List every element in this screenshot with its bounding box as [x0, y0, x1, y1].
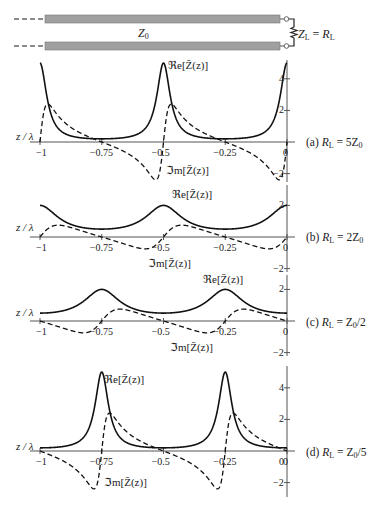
- x-tick-label: −0.5: [152, 243, 170, 253]
- plot-panel-d: [30, 366, 295, 497]
- x-tick-label: −0.75: [90, 243, 113, 253]
- x-tick-label: −1: [36, 327, 47, 337]
- x-axis-label-b: z / λ: [16, 222, 34, 233]
- panel-caption-a: (a) RL = 5Z0: [306, 137, 363, 150]
- y-tick-label: −2: [273, 348, 284, 358]
- re-curve: [40, 63, 287, 139]
- y-tick-label: 2: [279, 414, 284, 424]
- re-curve-label-d: ℜe[Z̄(z)]: [104, 374, 144, 385]
- x-tick-label: −0.75: [90, 148, 113, 158]
- im-curve-label-c: ℑm[Z̄(z)]: [170, 342, 213, 353]
- im-curve-label-d: ℑm[Z̄(z)]: [104, 477, 147, 488]
- load-resistor-icon: [289, 19, 297, 46]
- x-axis-label-c: z / λ: [16, 307, 34, 318]
- im-curve-label-b: ℑm[Z̄(z)]: [148, 258, 191, 269]
- y-tick-label: −2: [273, 169, 284, 179]
- y-tick-label: 2: [279, 105, 284, 115]
- x-tick-label: −0.25: [213, 243, 236, 253]
- x-tick-label: −1: [36, 457, 47, 467]
- y-tick-label: 2: [279, 284, 284, 294]
- x-tick-label: −1: [36, 148, 47, 158]
- panel-caption-b: (b) RL = 2Z0: [306, 232, 363, 245]
- x-tick-label: −1: [36, 243, 47, 253]
- x-tick-label: −0.75: [90, 457, 113, 467]
- y-tick-label: 4: [279, 383, 284, 393]
- top-conductor: [45, 15, 280, 23]
- panel-caption-d: (d) RL = Z0/5: [306, 447, 366, 460]
- re-curve: [40, 205, 287, 229]
- x-tick-label: −0.5: [152, 457, 170, 467]
- y-tick-label: 2: [279, 200, 284, 210]
- y-tick-label: −2: [273, 264, 284, 274]
- plot-panel-c: [30, 275, 295, 356]
- bottom-conductor: [45, 42, 280, 50]
- x-axis-label-a: z / λ: [16, 131, 34, 142]
- x-tick-label: −0.25: [213, 457, 236, 467]
- y-tick-label: 0: [279, 457, 284, 467]
- x-axis-label-d: z / λ: [16, 441, 34, 452]
- transmission-line-diagram: [14, 15, 297, 50]
- top-terminal: [284, 17, 289, 22]
- y-tick-label: −2: [273, 478, 284, 488]
- panel-caption-c: (c) RL = Z0/2: [306, 317, 366, 330]
- impedance-figure: [0, 0, 388, 510]
- x-tick-label: 0: [283, 148, 288, 158]
- x-tick-label: −0.5: [152, 327, 170, 337]
- load-impedance-label: ZL = RL: [298, 28, 335, 42]
- x-tick-label: −0.25: [213, 148, 236, 158]
- re-curve-label-b: ℜe[Z̄(z)]: [172, 189, 212, 200]
- re-curve-label-a: ℜe[Z̄(z)]: [168, 60, 208, 71]
- x-tick-label: −0.75: [90, 327, 113, 337]
- bottom-terminal: [284, 44, 289, 49]
- x-tick-label: 0: [283, 243, 288, 253]
- x-tick-label: −0.25: [213, 327, 236, 337]
- re-curve: [40, 372, 287, 448]
- line-impedance-label: Z0: [138, 27, 149, 41]
- plot-panel-a: [30, 60, 295, 182]
- x-tick-label: 0: [283, 327, 288, 337]
- x-tick-label: −0.5: [152, 148, 170, 158]
- y-tick-label: 4: [279, 74, 284, 84]
- re-curve-label-c: ℜe[Z̄(z)]: [203, 274, 243, 285]
- im-curve-label-a: ℑm[Z̄(z)]: [166, 165, 209, 176]
